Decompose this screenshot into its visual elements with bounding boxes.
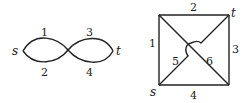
left-edge-label-4: 4 [86,66,93,79]
right-source-label: s [150,85,156,99]
left-edge-3 [68,38,113,51]
left-source-label: s [12,44,18,58]
left-edge-label-3: 3 [86,26,93,39]
left-edge-2 [23,50,68,62]
left-edge-1 [23,38,68,51]
right-edge-label-4: 4 [190,89,197,102]
right-edge-label-6: 6 [206,55,213,68]
right-edge-label-2: 2 [190,1,197,14]
left-edge-label-1: 1 [41,26,48,39]
diagram-canvas: s t 1 2 3 4 s t 1 2 3 4 5 6 [0,0,248,103]
right-edge-label-5: 5 [172,55,179,68]
right-edge-label-1: 1 [149,37,156,50]
left-edge-4 [68,50,113,62]
right-edge-label-3: 3 [232,43,239,56]
right-sink-label: t [231,6,236,20]
right-graph: s t 1 2 3 4 5 6 [149,1,239,102]
left-graph: s t 1 2 3 4 [12,26,121,79]
left-edge-label-2: 2 [41,66,48,79]
left-sink-label: t [116,44,121,58]
